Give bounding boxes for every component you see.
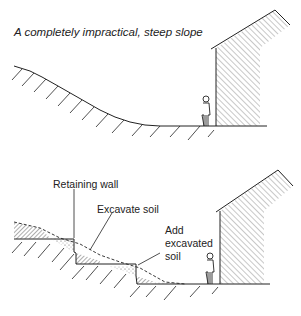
label-add-soil-1: Add — [165, 224, 184, 236]
ground-hatching — [12, 69, 214, 140]
leader-excavate-soil — [90, 213, 112, 250]
house-top — [211, 10, 290, 126]
label-retaining-wall: Retaining wall — [53, 178, 118, 190]
top-slope-section — [12, 10, 290, 140]
label-add-soil-3: soil — [165, 250, 181, 262]
label-add-soil-2: excavated — [165, 237, 213, 249]
label-excavate-soil: Excavate soil — [97, 203, 159, 215]
ground-hatching-bottom — [12, 242, 218, 300]
house-bottom — [216, 170, 293, 284]
cut-area-3 — [136, 276, 155, 284]
diagram-drawing — [0, 0, 301, 316]
fill-area-2 — [108, 266, 136, 276]
cut-area-2 — [76, 253, 100, 264]
person-figure-top — [202, 96, 210, 126]
person-figure-bottom — [206, 253, 214, 284]
diagram-canvas: A completely impractical, steep slope — [0, 0, 301, 316]
leader-add-soil — [138, 253, 160, 265]
